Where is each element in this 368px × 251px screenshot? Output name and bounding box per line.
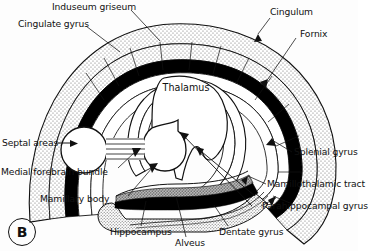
label-induseum-griseum: Induseum griseum bbox=[52, 1, 136, 12]
label-alveus: Alveus bbox=[175, 237, 205, 248]
label-mamillary-body: Mamillary body bbox=[40, 193, 109, 204]
label-cingulate-gyrus: Cingulate gyrus bbox=[18, 18, 89, 29]
label-parahippocampal-gyrus: Parahippocampal gyrus bbox=[262, 200, 368, 211]
thalamus-label: Thalamus bbox=[162, 82, 210, 93]
label-fornix: Fornix bbox=[300, 28, 327, 39]
label-splenial-gyrus: Splenial gyrus bbox=[294, 146, 358, 157]
leader-cingulum bbox=[258, 18, 270, 34]
label-mamillothalamic-tract: Mamillothalamic tract bbox=[267, 178, 365, 189]
label-medial-forebrain-bundle: Medial forebrain bundle bbox=[1, 166, 108, 177]
panel-letter-b: B bbox=[8, 218, 36, 246]
arrow-cingulum bbox=[254, 34, 262, 42]
label-dentate-gyrus: Dentate gyrus bbox=[219, 226, 283, 237]
label-hippocampus: Hippocampus bbox=[110, 226, 172, 237]
label-cingulum: Cingulum bbox=[270, 6, 313, 17]
label-septal-areas: Septal areas bbox=[2, 137, 58, 148]
